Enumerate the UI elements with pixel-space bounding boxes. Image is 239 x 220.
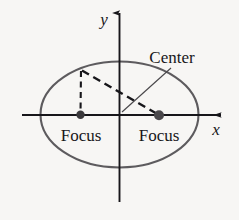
ellipse-diagram-svg: y x Focus Focus Center (0, 0, 239, 220)
x-axis-label: x (211, 120, 220, 139)
y-axis-label: y (98, 10, 108, 29)
focus-right-label: Focus (139, 126, 180, 145)
ellipse-figure: y x Focus Focus Center (0, 0, 239, 220)
focus-right-point (154, 110, 164, 120)
focus-left-label: Focus (61, 126, 102, 145)
center-label: Center (149, 48, 195, 67)
focus-left-point (76, 111, 84, 119)
